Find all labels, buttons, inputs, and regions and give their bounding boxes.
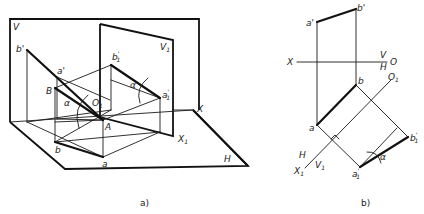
box-a-a1base [103, 132, 160, 157]
label-a-prime: a' [306, 18, 314, 28]
label-B: B [46, 86, 52, 96]
plane-h-outline [10, 110, 248, 169]
diagram-stage: V V1 H X X1 b' a' B A O1 b a b'1 a'1 α α… [0, 0, 424, 214]
label-axis-h: H [380, 62, 387, 72]
label-alpha-2: α [130, 80, 136, 90]
label-h-side: H [299, 150, 306, 160]
label-b1-prime: b'1 [112, 50, 120, 63]
label-alpha-1: α [64, 98, 70, 108]
label-a-prime: a' [57, 66, 65, 76]
label-b-prime: b' [357, 3, 365, 13]
label-v1-side: V1 [315, 160, 325, 171]
proj-aprime-diag [57, 77, 110, 100]
segment-b-a [55, 142, 103, 157]
label-b: b [55, 145, 61, 155]
caption-b: b) [361, 198, 370, 208]
figure-b: a' b' X V H O b O1 a b'1 a'1 α H V1 X1 b… [286, 3, 418, 208]
label-O1: O1 [92, 98, 103, 109]
label-axis-x1: X1 [293, 166, 304, 177]
figure-a: V V1 H X X1 b' a' B A O1 b a b'1 a'1 α α… [10, 19, 248, 208]
plane-v-frame [10, 19, 199, 122]
perp-b-b1 [356, 85, 408, 137]
label-A: A [104, 122, 111, 132]
label-b1-prime: b'1 [410, 131, 418, 144]
h-diag-1 [27, 122, 103, 157]
plane-h-right-edge [193, 110, 248, 166]
label-axis-o: O [390, 57, 397, 67]
segment-aprime-bprime [317, 9, 356, 22]
perp-a-a1 [317, 125, 360, 167]
label-b-prime: b' [16, 44, 24, 54]
label-a1-prime: a'1 [162, 88, 170, 101]
label-plane-v1: V1 [160, 42, 170, 53]
label-a: a [102, 159, 108, 169]
segment-a-b [317, 85, 356, 125]
label-a: a [309, 123, 315, 133]
segment-bprime-aprime [27, 50, 103, 120]
label-axis-v: V [380, 50, 387, 60]
box-A-a1 [103, 98, 160, 120]
label-alpha: α [380, 152, 386, 162]
label-a1-prime: a'1 [352, 167, 360, 180]
caption-a: a) [140, 198, 149, 208]
label-axis-x1: X1 [177, 134, 188, 145]
alpha-arc-1 [77, 95, 88, 128]
label-o1: O1 [388, 72, 399, 83]
label-axis-x: X [196, 104, 204, 114]
label-b: b [358, 76, 364, 86]
h-link-A [57, 119, 103, 120]
label-axis-x: X [286, 57, 294, 67]
h-diag-3 [55, 120, 103, 122]
label-plane-h: H [224, 154, 231, 164]
label-plane-v: V [13, 22, 20, 32]
